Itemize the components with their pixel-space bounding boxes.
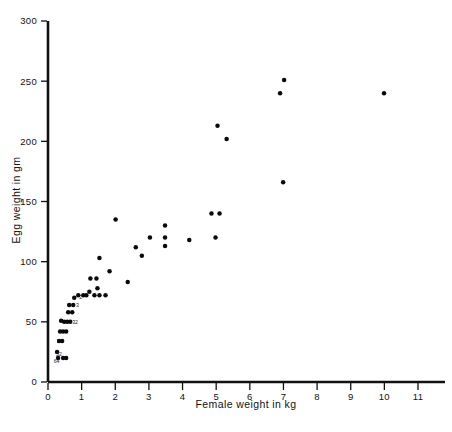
- data-point: [64, 329, 69, 334]
- x-tick-label: 9: [348, 391, 354, 402]
- data-point: [224, 137, 229, 142]
- plot-canvas: 050100150200250300 01234567891011 645223…: [0, 0, 452, 432]
- x-tick-label: 11: [413, 391, 423, 402]
- y-tick-label: 250: [20, 76, 37, 87]
- data-point: [125, 280, 130, 285]
- data-point: [87, 290, 92, 295]
- x-axis-title: Female weight in kg: [196, 398, 297, 410]
- x-tick-label: 3: [146, 391, 152, 402]
- data-point: [113, 217, 118, 222]
- x-tick-label: 10: [379, 391, 390, 402]
- data-point: [282, 78, 287, 83]
- data-point: [148, 235, 153, 240]
- cluster-count-label: 52: [56, 351, 62, 357]
- data-point: [72, 296, 77, 301]
- scatter-plot-figure: 050100150200250300 01234567891011 645223…: [0, 0, 452, 432]
- y-tick-label: 100: [20, 256, 37, 267]
- data-point: [103, 293, 108, 298]
- data-point: [60, 339, 65, 344]
- data-point: [71, 303, 76, 308]
- data-point: [215, 123, 220, 128]
- y-axis-title: Egg weight in gm: [10, 157, 22, 244]
- data-point: [66, 310, 71, 315]
- y-tick-label: 50: [26, 316, 37, 327]
- x-tick-label: 2: [112, 391, 118, 402]
- data-point: [163, 223, 168, 228]
- axes-group: [48, 21, 445, 382]
- data-point: [213, 235, 218, 240]
- y-tick-label: 300: [20, 15, 37, 26]
- data-point: [107, 269, 112, 274]
- x-tick-label: 4: [180, 391, 186, 402]
- data-point: [163, 235, 168, 240]
- data-points-layer: [55, 78, 386, 360]
- data-point: [88, 276, 93, 281]
- data-point: [134, 245, 139, 250]
- y-tick-label: 150: [20, 196, 37, 207]
- y-axis-ticks: 050100150200250300: [20, 15, 47, 387]
- data-point: [278, 91, 283, 96]
- cluster-count-label: 2: [57, 338, 60, 344]
- data-point: [140, 253, 145, 258]
- x-tick-label: 1: [79, 391, 85, 402]
- data-point: [64, 356, 69, 361]
- data-point: [187, 238, 192, 243]
- data-point: [97, 256, 102, 261]
- cluster-count-label: 32: [72, 319, 78, 325]
- cluster-count-label: 2: [79, 294, 82, 300]
- data-point: [84, 293, 89, 298]
- data-point: [67, 303, 72, 308]
- data-point: [94, 276, 99, 281]
- data-point: [209, 211, 214, 216]
- data-point: [281, 180, 286, 185]
- cluster-count-label: 64: [54, 358, 60, 364]
- y-tick-label: 200: [20, 136, 37, 147]
- data-point: [97, 293, 102, 298]
- data-point: [92, 293, 97, 298]
- data-point: [217, 211, 222, 216]
- data-point: [59, 318, 64, 323]
- data-point: [382, 91, 387, 96]
- y-tick-label: 0: [31, 376, 37, 387]
- x-tick-label: 0: [45, 391, 51, 402]
- data-point: [70, 310, 75, 315]
- data-point: [163, 244, 168, 249]
- x-tick-label: 8: [314, 391, 320, 402]
- data-point: [95, 286, 100, 291]
- cluster-count-label: 3: [76, 302, 79, 308]
